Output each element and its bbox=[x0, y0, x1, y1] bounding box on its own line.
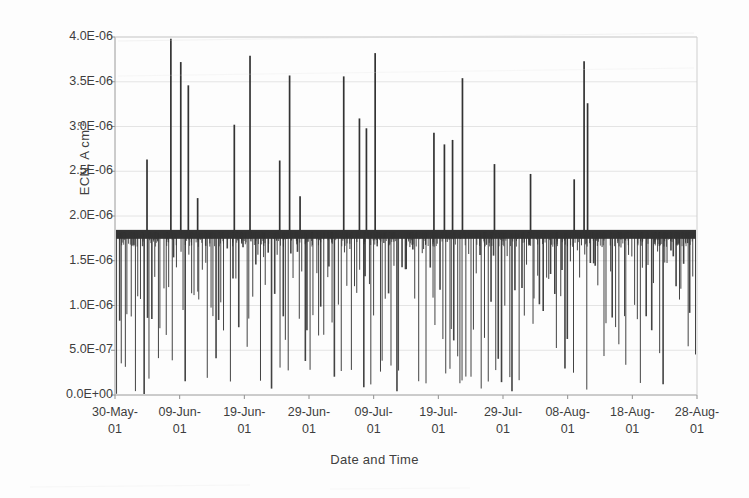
y-axis-tick-label: 0.0E+00 bbox=[39, 388, 113, 401]
y-axis-tick-label: 4.0E-06 bbox=[39, 30, 113, 43]
y-axis-tick-label: 1.0E-06 bbox=[39, 299, 113, 312]
y-axis-tick-label: 3.5E-06 bbox=[39, 75, 113, 88]
y-axis-tick-label: 3.0E-06 bbox=[39, 120, 113, 133]
axis-tick-marks bbox=[111, 37, 697, 399]
x-axis-tick-label: 28-Aug-01 bbox=[655, 404, 739, 438]
chart-figure: ECN, A cm-2 Date and Time 4.0E-063.5E-06… bbox=[0, 0, 749, 498]
x-axis-tick-label-line2: 01 bbox=[655, 421, 739, 438]
y-axis-tick-label: 1.5E-06 bbox=[39, 254, 113, 267]
x-axis-tick-label-line1: 28-Aug- bbox=[655, 404, 739, 421]
y-axis-tick-label: 5.0E-07 bbox=[39, 343, 113, 356]
y-axis-tick-label: 2.5E-06 bbox=[39, 164, 113, 177]
grid-lines bbox=[115, 37, 697, 350]
y-axis-tick-label: 2.0E-06 bbox=[39, 209, 113, 222]
